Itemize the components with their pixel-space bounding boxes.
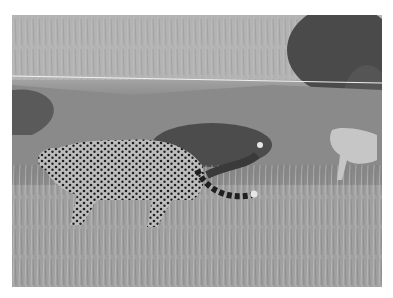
cheetah-photograph: [12, 15, 382, 287]
photo-scene: [12, 15, 382, 287]
